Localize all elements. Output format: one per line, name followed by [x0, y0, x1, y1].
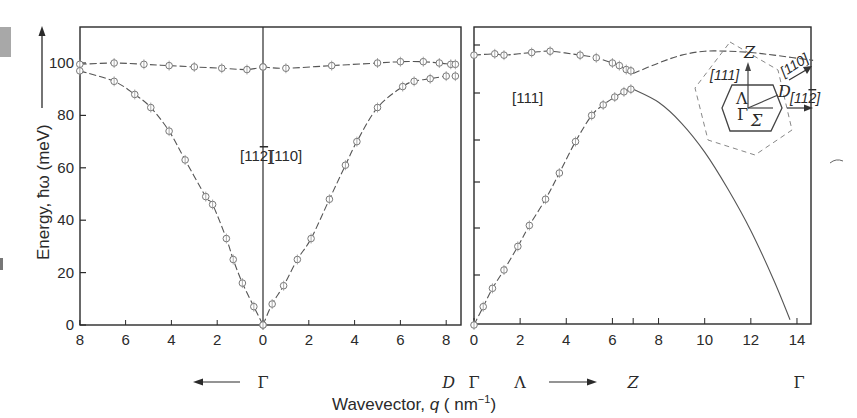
right-plot-frame	[474, 27, 811, 324]
z-point-label: Z	[626, 373, 639, 392]
x-tick-label: 2	[516, 331, 524, 348]
x-tick-label: 4	[562, 331, 570, 348]
y-tick-label: 0	[66, 316, 74, 333]
x-tick-label: 8	[654, 331, 662, 348]
up-arrow-icon	[39, 26, 46, 36]
right-arrow-icon	[587, 379, 597, 386]
plot-frames	[80, 27, 811, 325]
inset-gamma-label: Γ	[737, 105, 748, 124]
dispersion-curve	[633, 89, 790, 320]
x-tick-label: 14	[789, 331, 806, 348]
direction-label-112: [112]	[240, 147, 272, 164]
inset-110-label: [110]	[776, 49, 812, 80]
inset-sigma-label: Σ	[750, 111, 763, 130]
stray-mark	[830, 160, 843, 163]
x-tick-label: 8	[442, 331, 450, 348]
x-tick-label: 8	[76, 331, 84, 348]
inset-up-arrow-icon	[745, 62, 751, 71]
y-tick-label: 20	[57, 264, 74, 281]
x-tick-label: 2	[305, 331, 313, 348]
y-tick-label: 60	[57, 159, 74, 176]
axis-ticks: 02040608010086420246802468101214	[49, 45, 805, 348]
brillouin-zone-inset: Z [111] [110] [112] Λ Γ Σ D	[695, 42, 821, 155]
y-axis-title: Energy, ħω (meV)	[34, 124, 53, 260]
x-tick-label: 10	[696, 331, 713, 348]
x-tick-label: 0	[470, 331, 478, 348]
left-arrow-icon	[193, 379, 203, 386]
data-points	[77, 46, 635, 330]
inset-112-label: [112]	[789, 90, 821, 106]
y-axis-title-text: Energy, ħω (meV)	[34, 124, 53, 260]
y-tick-label: 100	[49, 54, 74, 71]
x-tick-label: 2	[213, 331, 221, 348]
inset-d-label: D	[777, 82, 791, 101]
direction-label-110: [110]	[270, 147, 302, 164]
dispersion-curve	[263, 76, 455, 325]
phonon-dispersion-chart: 02040608010086420246802468101214 [112] […	[0, 0, 857, 418]
gamma-label-right-start: Γ	[468, 373, 479, 392]
d-point-label: D	[441, 373, 455, 392]
lambda-label: Λ	[513, 373, 526, 392]
y-tick-label: 40	[57, 211, 74, 228]
gamma-label-right-end: Γ	[793, 373, 804, 392]
x-tick-label: 6	[608, 331, 616, 348]
dispersion-curve	[474, 89, 631, 325]
x-tick-label: 6	[396, 331, 404, 348]
direction-label-111: [111]	[512, 89, 543, 106]
x-tick-label: 4	[167, 331, 175, 348]
gamma-label-left: Γ	[257, 373, 268, 392]
y-tick-label: 80	[57, 106, 74, 123]
left-plot-frame	[80, 27, 461, 325]
x-tick-label: 0	[259, 331, 267, 348]
x-axis-title: Wavevector, q ( nm−1)	[332, 393, 496, 414]
dispersion-curve	[80, 71, 263, 325]
x-tick-label: 6	[121, 331, 129, 348]
inset-111-label: [111]	[709, 67, 740, 83]
x-tick-label: 4	[350, 331, 358, 348]
dispersion-curves	[80, 51, 813, 325]
inset-z-label: Z	[743, 43, 756, 62]
inset-d-line	[748, 95, 778, 108]
x-tick-label: 12	[742, 331, 759, 348]
